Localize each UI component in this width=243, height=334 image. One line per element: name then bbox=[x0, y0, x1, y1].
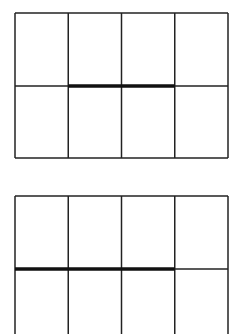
grid-diagram-canvas bbox=[0, 0, 243, 334]
